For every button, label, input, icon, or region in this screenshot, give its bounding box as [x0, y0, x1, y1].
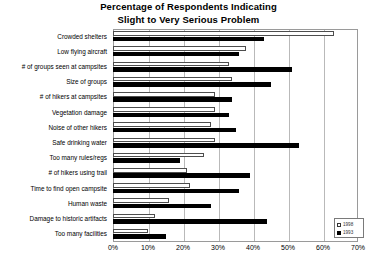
bar-1993 [113, 113, 229, 118]
bar-1993 [113, 143, 299, 148]
bar-1998 [113, 31, 334, 36]
category-label: Size of groups [0, 75, 110, 90]
bar-1998 [113, 214, 155, 219]
chart-title-line-2: Slight to Very Serious Problem [0, 14, 377, 27]
bar-1993 [113, 82, 271, 87]
category-axis-labels: Crowded sheltersLow flying aircraft# of … [0, 29, 110, 242]
bar-1998 [113, 77, 232, 82]
x-tick-label: 50% [281, 244, 295, 251]
legend-label-1998: 1998 [343, 222, 353, 227]
bar-1998 [113, 183, 190, 188]
bar-1998 [113, 168, 187, 173]
legend-swatch-1998-icon [337, 223, 341, 227]
category-label: Vegetation damage [0, 105, 110, 120]
category-label: Too many rules/regs [0, 151, 110, 166]
bar-1993 [113, 234, 166, 239]
bar-rows [113, 29, 358, 242]
bar-1993 [113, 173, 250, 178]
x-tick-label: 10% [141, 244, 155, 251]
bar-group [113, 211, 358, 226]
bar-group [113, 166, 358, 181]
category-label: Crowded shelters [0, 29, 110, 44]
category-label: Time to find open campsite [0, 181, 110, 196]
bar-1998 [113, 122, 211, 127]
bar-1993 [113, 67, 292, 72]
legend-item-1993: 1993 [337, 229, 361, 237]
x-tick-label: 60% [316, 244, 330, 251]
bar-group [113, 181, 358, 196]
category-label: Too many facilities [0, 227, 110, 242]
x-axis: 0%10%20%30%40%50%60%70% [113, 244, 358, 258]
bar-1993 [113, 158, 180, 163]
bar-1998 [113, 92, 215, 97]
x-tick-label: 70% [351, 244, 365, 251]
bar-group [113, 196, 358, 211]
x-tick-label: 30% [211, 244, 225, 251]
bar-1998 [113, 138, 215, 143]
category-label: # of hikers at campsites [0, 90, 110, 105]
legend-label-1993: 1993 [343, 230, 353, 235]
category-label: Human waste [0, 196, 110, 211]
bar-1998 [113, 229, 148, 234]
x-tick-label: 40% [246, 244, 260, 251]
bar-1993 [113, 204, 211, 209]
category-label: Noise of other hikers [0, 120, 110, 135]
bar-1993 [113, 97, 232, 102]
bar-group [113, 227, 358, 242]
bar-group [113, 151, 358, 166]
legend-swatch-1993-icon [337, 231, 341, 235]
bar-1993 [113, 128, 236, 133]
bar-group [113, 59, 358, 74]
bar-group [113, 75, 358, 90]
bar-1993 [113, 189, 239, 194]
bar-1998 [113, 46, 246, 51]
bar-1998 [113, 107, 215, 112]
chart-title-line-1: Percentage of Respondents Indicating [0, 1, 377, 14]
chart-title: Percentage of Respondents Indicating Sli… [0, 1, 377, 26]
bar-group [113, 105, 358, 120]
bar-chart: Percentage of Respondents Indicating Sli… [0, 0, 377, 275]
category-label: Damage to historic artifacts [0, 211, 110, 226]
chart-legend: 1998 1993 [334, 218, 364, 238]
bar-group [113, 135, 358, 150]
bar-1998 [113, 153, 204, 158]
bar-group [113, 44, 358, 59]
category-label: # of groups seen at campsites [0, 59, 110, 74]
category-label: Low flying aircraft [0, 44, 110, 59]
category-label: Safe drinking water [0, 135, 110, 150]
legend-item-1998: 1998 [337, 221, 361, 229]
x-tick-label: 0% [108, 244, 118, 251]
bar-group [113, 120, 358, 135]
bar-1993 [113, 37, 264, 42]
bar-1998 [113, 198, 169, 203]
bar-1993 [113, 52, 239, 57]
bar-1998 [113, 62, 229, 67]
x-tick-label: 20% [176, 244, 190, 251]
bar-1993 [113, 219, 267, 224]
bar-group [113, 90, 358, 105]
category-label: # of hikers using trail [0, 166, 110, 181]
bar-group [113, 29, 358, 44]
